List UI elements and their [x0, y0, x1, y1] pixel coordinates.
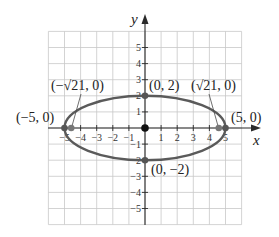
y-tick-label: 4	[136, 58, 141, 69]
point-focus-left	[68, 125, 75, 132]
x-axis-arrow-icon	[251, 125, 261, 132]
point-vertex-right	[222, 125, 229, 132]
y-tick-label: −4	[130, 187, 141, 198]
y-tick-label: 1	[136, 106, 141, 117]
point-vertex-left	[61, 125, 68, 132]
label-sqrt21-0: (√21, 0)	[191, 78, 236, 94]
label-0-2: (0, 2)	[149, 78, 180, 94]
y-tick-label: 3	[136, 74, 141, 85]
x-tick-label: −2	[107, 132, 118, 143]
x-tick-label: 3	[191, 132, 196, 143]
x-tick-label: 1	[159, 132, 164, 143]
point-covertex-top	[142, 93, 149, 100]
y-tick-label: −3	[130, 171, 141, 182]
label-neg5-0: (−5, 0)	[16, 110, 55, 126]
x-tick-label: −4	[75, 132, 86, 143]
point-focus-right	[216, 125, 223, 132]
point-covertex-bottom	[142, 157, 149, 164]
y-axis-arrow-icon	[142, 14, 149, 24]
x-tick-label: 2	[175, 132, 180, 143]
y-axis-label: y	[129, 11, 138, 27]
x-axis-label: x	[252, 132, 260, 148]
ellipse-chart: −5−4−3−2−112345−5−4−3−2−112345 x y (−√21…	[0, 0, 279, 237]
x-tick-label: −3	[91, 132, 102, 143]
label-0-neg2: (0, −2)	[151, 162, 190, 178]
y-tick-label: −5	[130, 203, 141, 214]
point-center	[141, 124, 149, 132]
y-tick-label: 5	[136, 42, 141, 53]
label-5-0: (5, 0)	[231, 110, 262, 126]
label-neg-sqrt21-0: (−√21, 0)	[51, 78, 104, 94]
y-tick-label: −1	[130, 139, 141, 150]
x-tick-label: 4	[207, 132, 212, 143]
